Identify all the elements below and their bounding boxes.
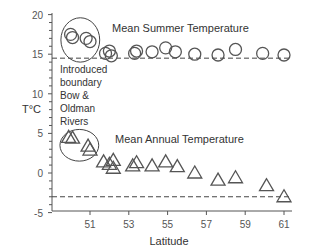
x-tick-label: 51 (84, 219, 96, 230)
triangle-marker (260, 179, 274, 191)
x-tick-label: 61 (278, 219, 290, 230)
triangle-marker (277, 190, 291, 202)
x-tick-label: 53 (123, 219, 135, 230)
circle-marker (169, 46, 181, 58)
boundary-annotation-line: Rivers (60, 116, 88, 127)
y-tick-label: 5 (37, 128, 43, 139)
x-tick-label: 57 (201, 219, 213, 230)
circle-marker (278, 49, 290, 61)
x-axis-label: Latitude (149, 235, 188, 247)
y-tick-label: 20 (32, 10, 44, 21)
annual-annotation: Mean Annual Temperature (115, 133, 244, 145)
scatter-chart: -505101520515355575961 T°C Latitude Mean… (0, 0, 310, 251)
triangle-marker (126, 159, 140, 171)
triangle-marker (211, 173, 225, 185)
boundary-annotation-line: boundary (60, 77, 102, 88)
triangle-marker (188, 166, 202, 178)
y-tick-label: -5 (34, 208, 43, 219)
y-tick-label: 15 (32, 49, 44, 60)
summer-annotation: Mean Summer Temperature (112, 22, 249, 34)
boundary-annotation-line: Bow & (60, 90, 89, 101)
circle-marker (230, 43, 242, 55)
triangle-marker (145, 159, 159, 171)
circle-marker (67, 32, 79, 44)
x-tick-label: 59 (240, 219, 252, 230)
y-tick-label: 10 (32, 89, 44, 100)
x-tick-label: 55 (162, 219, 174, 230)
boundary-annotation: IntroducedboundaryBow &OldmanRivers (60, 64, 107, 127)
circle-marker (189, 48, 201, 60)
triangle-marker (229, 171, 243, 183)
circle-marker (146, 46, 158, 58)
boundary-annotation-line: Introduced (60, 64, 107, 75)
circle-marker (80, 32, 92, 44)
y-axis-label: T°C (22, 103, 41, 115)
circle-marker (212, 49, 224, 61)
triangle-marker (159, 155, 173, 167)
boundary-annotation-line: Oldman (60, 103, 95, 114)
circle-marker (84, 36, 96, 48)
y-tick-label: 0 (37, 168, 43, 179)
circle-marker (257, 47, 269, 59)
